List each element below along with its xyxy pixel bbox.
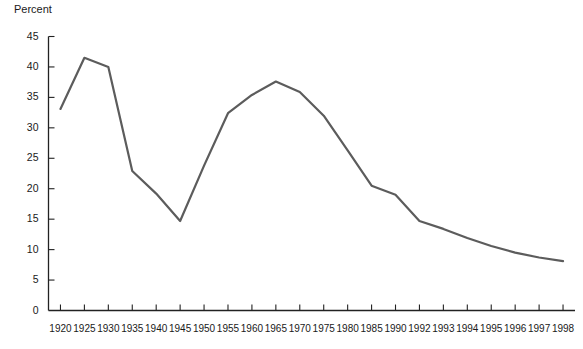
y-axis-tick-label: 5: [17, 274, 39, 285]
x-axis-tick-label: 1970: [289, 323, 311, 334]
x-axis-tick-label: 1935: [121, 323, 143, 334]
x-axis-tick-label: 1945: [169, 323, 191, 334]
x-axis-tick-label: 1994: [456, 323, 478, 334]
axis-lines: [49, 37, 576, 311]
x-axis-tick-label: 1985: [360, 323, 382, 334]
x-axis-tick-label: 1950: [193, 323, 215, 334]
plot-area: [0, 0, 583, 349]
x-axis-tick-label: 1992: [408, 323, 430, 334]
x-axis-tick-label: 1930: [97, 323, 119, 334]
data-series-line: [60, 58, 563, 261]
x-axis-tick-label: 1980: [337, 323, 359, 334]
x-axis-tick-label: 1996: [504, 323, 526, 334]
x-axis-tick-label: 1965: [265, 323, 287, 334]
y-axis-tick-label: 0: [17, 305, 39, 316]
x-axis-tick-label: 1920: [49, 323, 71, 334]
x-axis-tick-label: 1975: [313, 323, 335, 334]
tick-marks: [49, 37, 564, 311]
y-axis-tick-label: 25: [17, 152, 39, 163]
y-axis-tick-label: 40: [17, 61, 39, 72]
x-axis-tick-label: 1997: [528, 323, 550, 334]
y-axis-tick-label: 10: [17, 244, 39, 255]
x-axis-tick-label: 1940: [145, 323, 167, 334]
y-axis-tick-label: 35: [17, 91, 39, 102]
y-axis-tick-label: 15: [17, 213, 39, 224]
y-axis-tick-label: 45: [17, 31, 39, 42]
line-chart: Percent 051015202530354045 1920192519301…: [0, 0, 583, 349]
x-axis-tick-label: 1995: [480, 323, 502, 334]
x-axis-tick-label: 1925: [73, 323, 95, 334]
y-axis-tick-label: 30: [17, 122, 39, 133]
x-axis-tick-label: 1955: [217, 323, 239, 334]
x-axis-tick-label: 1998: [552, 323, 574, 334]
x-axis-tick-label: 1960: [241, 323, 263, 334]
x-axis-tick-label: 1993: [432, 323, 454, 334]
x-axis-tick-label: 1990: [384, 323, 406, 334]
y-axis-tick-label: 20: [17, 183, 39, 194]
